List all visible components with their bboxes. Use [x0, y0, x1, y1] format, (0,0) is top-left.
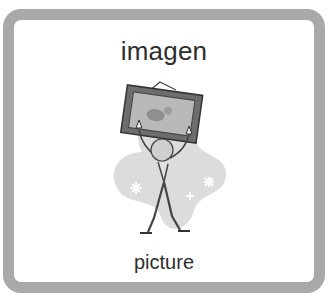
card-title: imagen	[14, 36, 314, 67]
vocabulary-card: imagen	[3, 9, 325, 293]
person-holding-picture-frame-icon	[94, 70, 244, 245]
card-caption: picture	[14, 251, 314, 274]
